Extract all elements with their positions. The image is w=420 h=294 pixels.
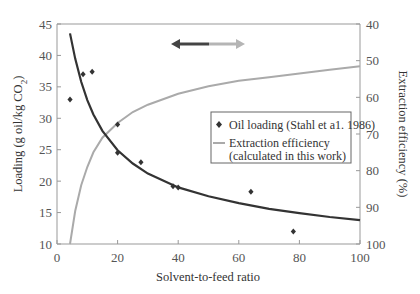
x-tick-label: 60 bbox=[232, 250, 245, 265]
x-tick-label: 20 bbox=[111, 250, 124, 265]
x-tick-label: 80 bbox=[293, 250, 306, 265]
data-point-diamond bbox=[67, 96, 72, 102]
y-tick-label: 30 bbox=[39, 111, 52, 126]
x-tick-label: 100 bbox=[350, 250, 370, 265]
data-point-diamond bbox=[138, 159, 143, 165]
y-tick-label: 35 bbox=[39, 79, 52, 94]
y-tick-label: 25 bbox=[39, 142, 52, 157]
data-point-diamond bbox=[291, 228, 296, 234]
legend: Oil loading (Stahl et a1. 1986) Extracti… bbox=[211, 112, 375, 163]
y-tick-label: 15 bbox=[39, 205, 52, 220]
legend-item-extraction-efficiency: Extraction efficiency (calculated in thi… bbox=[213, 136, 346, 163]
double-arrow-annotation bbox=[171, 39, 245, 49]
data-point-diamond bbox=[90, 69, 95, 75]
legend-item-oil-loading: Oil loading (Stahl et a1. 1986) bbox=[216, 118, 375, 132]
y-tick-label: 40 bbox=[39, 48, 52, 63]
y-right-tick-label: 100 bbox=[366, 237, 386, 252]
y-right-tick-label: 60 bbox=[366, 90, 379, 105]
y-right-tick-label: 90 bbox=[366, 200, 379, 215]
svg-text:Extraction efficiency: Extraction efficiency bbox=[229, 136, 330, 150]
y-right-tick-label: 80 bbox=[366, 163, 379, 178]
y-axis-left-title: Loading (g oil/kg CO2) bbox=[11, 76, 29, 193]
y-right-tick-label: 50 bbox=[366, 53, 379, 68]
x-tick-label: 40 bbox=[172, 250, 185, 265]
data-point-diamond bbox=[176, 184, 181, 190]
chart: 020406080100 1015202530354045 4050607080… bbox=[0, 0, 420, 294]
x-axis-title: Solvent-to-feed ratio bbox=[156, 270, 260, 284]
svg-text:Oil loading (Stahl et a1. 1986: Oil loading (Stahl et a1. 1986) bbox=[229, 118, 375, 132]
y-tick-label: 45 bbox=[39, 17, 52, 32]
y-axis-left-ticks: 1015202530354045 bbox=[39, 17, 61, 252]
y-tick-label: 20 bbox=[39, 174, 52, 189]
y-right-tick-label: 40 bbox=[366, 17, 379, 32]
data-point-diamond bbox=[248, 189, 253, 195]
svg-text:(calculated in this work): (calculated in this work) bbox=[229, 149, 346, 163]
y-tick-label: 10 bbox=[39, 237, 52, 252]
y-axis-right-title: Extraction efficiency (%) bbox=[396, 71, 410, 198]
x-tick-label: 0 bbox=[54, 250, 61, 265]
data-point-diamond bbox=[80, 71, 85, 77]
